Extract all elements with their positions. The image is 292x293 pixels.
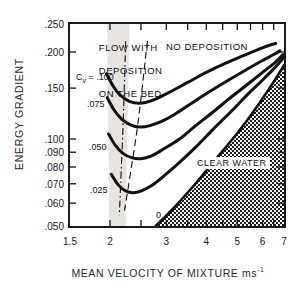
- y-tick-150: .150: [34, 83, 64, 94]
- x-tick-3: 3: [164, 236, 170, 247]
- cv-value: = .100: [86, 72, 114, 82]
- curve-label-cv-075: .075: [87, 99, 105, 109]
- curve-label-cv-025: .025: [90, 185, 108, 195]
- y-tick-050: .050: [34, 221, 64, 232]
- y-axis-tick-labels: .250 .200 .150 .100 .090 .080 .070 .060 …: [30, 0, 64, 293]
- y-tick-100: .100: [34, 134, 64, 145]
- x-tick-2: 2: [107, 236, 113, 247]
- x-tick-4: 4: [203, 236, 209, 247]
- curve-label-cv-050: .050: [89, 142, 107, 152]
- y-tick-060: .060: [34, 198, 64, 209]
- y-tick-090: .090: [34, 147, 64, 158]
- y-tick-080: .080: [34, 162, 64, 173]
- annotation-line-3: ON THE BED: [99, 88, 162, 99]
- y-tick-070: .070: [34, 178, 64, 189]
- x-axis-title-exponent: -1: [257, 266, 264, 273]
- curve-label-cv-000: 0: [156, 210, 161, 220]
- plot-area: FLOW WITH DEPOSITION ON THE BED NO DEPOS…: [68, 22, 286, 228]
- y-axis-title: ENERGY GRADIENT: [13, 39, 25, 189]
- curve-label-cv-100: Cv = .100: [76, 72, 114, 84]
- annotation-clear-water: CLEAR WATER: [194, 157, 270, 169]
- energy-gradient-chart: ENERGY GRADIENT .250 .200 .150 .100 .090…: [0, 0, 292, 293]
- x-axis-title: MEAN VELOCITY OF MIXTURE ms-1: [48, 266, 288, 279]
- x-tick-7: 7: [281, 236, 287, 247]
- annotation-line-1: FLOW WITH: [99, 42, 158, 53]
- x-tick-6: 6: [260, 236, 266, 247]
- x-axis-title-text: MEAN VELOCITY OF MIXTURE ms: [71, 267, 257, 279]
- y-tick-200: .200: [34, 47, 64, 58]
- annotation-no-deposition: NO DEPOSITION: [166, 41, 248, 53]
- y-tick-250: .250: [34, 19, 64, 30]
- x-tick-1p5: 1.5: [63, 236, 77, 247]
- x-tick-5: 5: [234, 236, 240, 247]
